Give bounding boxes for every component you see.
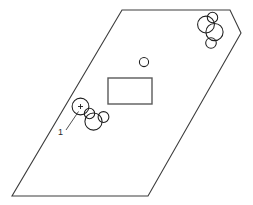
left-cluster-circle-4 (85, 113, 102, 130)
central-rectangle (108, 78, 152, 104)
right-circle-cluster (198, 12, 223, 48)
left-cluster-circle-3 (98, 112, 109, 123)
callout-label-1: 1 (58, 127, 63, 137)
technical-drawing: 1 (0, 0, 253, 205)
site-boundary-outline (12, 10, 241, 196)
right-cluster-circle-2 (207, 12, 217, 22)
left-circle-cluster (72, 98, 109, 130)
diagram-canvas: 1 (0, 0, 253, 205)
isolated-small-circle (139, 57, 148, 66)
callout-leader-line (66, 112, 79, 131)
